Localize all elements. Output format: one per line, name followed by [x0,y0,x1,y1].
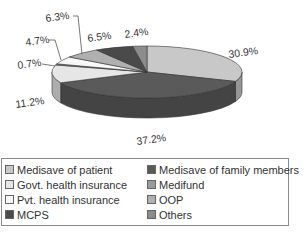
legend-item-govt-insurance: Govt. health insurance [5,177,147,192]
swatch-icon [147,195,156,204]
label-mcps: 6.5% [87,29,112,44]
swatch-icon [147,165,156,174]
legend-item-pvt-insurance: Pvt. health insurance [5,192,147,207]
swatch-icon [5,165,14,174]
pie-slices [52,46,242,118]
swatch-icon [5,180,14,189]
leader-line-4-7 [49,40,61,60]
swatch-icon [147,180,156,189]
pie-chart: 30.9% 37.2% 11.2% 0.7% 4.7% 6.3% 6.5% 2.… [0,0,306,155]
label-oop: 6.3% [45,9,70,24]
legend: Medisave of patient Medisave of family m… [1,158,289,226]
label-medisave-patient: 30.9% [228,44,259,60]
label-medifund: 0.7% [17,56,42,71]
legend-item-medisave-patient: Medisave of patient [5,162,147,177]
label-others: 2.4% [124,25,149,40]
legend-item-oop: OOP [147,192,293,207]
label-pvt-insurance: 4.7% [25,33,50,48]
swatch-icon [5,195,14,204]
legend-item-medisave-family: Medisave of family members [147,162,293,177]
label-govt-insurance: 11.2% [15,94,45,110]
leader-line-6-3 [73,16,82,54]
swatch-icon [147,210,156,219]
leader-line-0-7 [42,64,55,66]
legend-item-mcps: MCPS [5,207,147,222]
label-medisave-family: 37.2% [136,131,167,147]
legend-item-medifund: Medifund [147,177,293,192]
swatch-icon [5,210,14,219]
legend-item-others: Others [147,207,293,222]
